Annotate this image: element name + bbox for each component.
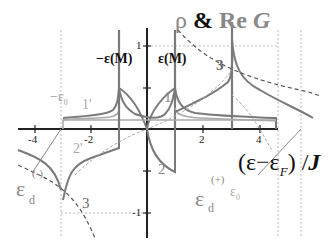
title-amp: & [193, 7, 213, 33]
x-tick-label: -2 [84, 134, 93, 145]
epsd-minus-label: ε (-) d [16, 178, 25, 200]
chart-title: ρ & Re G [175, 8, 270, 32]
epsd-plus-sub: d [208, 202, 214, 214]
xlabel-sub: F [280, 164, 288, 179]
plot-canvas [0, 0, 330, 240]
figure: ρ & Re G -4 -2 2 4 1 -1 (ε−εF) /J −ε(M) … [0, 0, 330, 240]
epsd-minus-text: ε [16, 176, 25, 201]
minus-eps-m-label: −ε(M) [96, 52, 133, 66]
curve-2p-label: 2' [73, 142, 83, 156]
title-g: G [253, 7, 270, 33]
epsd-plus-sup: (+) [211, 174, 225, 185]
y-tick-label: -1 [132, 207, 141, 218]
curve-1p-label: 1' [82, 98, 92, 112]
minus-eps0-text: −ε [50, 89, 64, 104]
x-tick-label: 4 [256, 134, 262, 145]
x-tick-label: -4 [28, 134, 37, 145]
title-rho: ρ [175, 7, 187, 33]
epsd-minus-sup: (-) [32, 168, 43, 179]
minus-eps0-label: −ε0 [50, 90, 68, 107]
xlabel-close: ) / [288, 149, 309, 175]
eps-m-label: ε(M) [158, 52, 187, 66]
y-tick-label: 1 [136, 40, 142, 51]
epsd-minus-sub: d [29, 194, 35, 206]
xlabel-open: (ε−ε [238, 149, 280, 175]
curve-3-right-label: 3 [216, 58, 224, 73]
x-axis-label: (ε−εF) /J [238, 150, 320, 178]
eps0-label: ε0 [230, 185, 240, 202]
minus-eps0-sub: 0 [64, 98, 68, 107]
curve-3-left-label: 3 [82, 196, 90, 211]
title-re: Re [219, 7, 247, 33]
eps0-sub: 0 [236, 193, 240, 202]
xlabel-j: J [308, 149, 320, 175]
x-tick-label: 2 [199, 134, 205, 145]
curve-1-label: 1 [164, 90, 172, 105]
epsd-plus-label: ε (+) d [195, 188, 204, 210]
curve-2-label: 2 [158, 162, 166, 177]
epsd-plus-text: ε [195, 186, 204, 211]
